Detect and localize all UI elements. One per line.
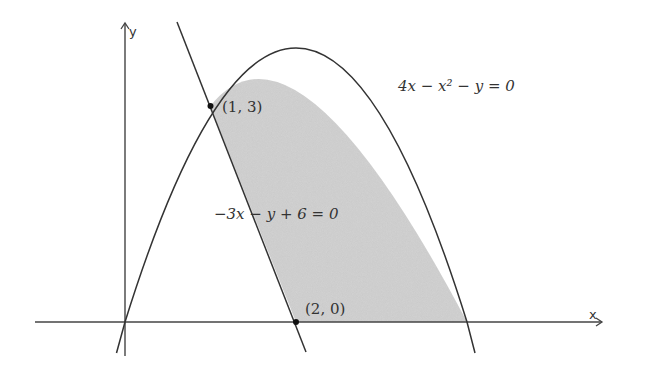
point-label-2-0: (2, 0)	[305, 300, 345, 318]
parabola-equation-label: 4x − x² − y = 0	[397, 77, 515, 95]
line-equation-label: −3x − y + 6 = 0	[214, 205, 339, 223]
diagram-canvas: x y (1, 3) (2, 0) 4x − x² − y = 0 −3x − …	[0, 0, 662, 377]
intersection-point-1-3	[208, 103, 214, 109]
y-axis	[121, 23, 129, 356]
point-2-0	[293, 319, 299, 325]
y-axis-label: y	[129, 24, 137, 39]
point-label-1-3: (1, 3)	[222, 98, 262, 116]
x-axis-label: x	[589, 307, 597, 322]
